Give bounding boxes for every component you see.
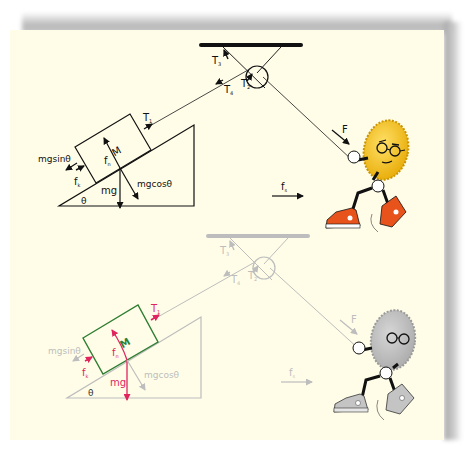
- ceiling-rope-right: [257, 47, 281, 73]
- rope-block-to-pulley: [156, 262, 255, 318]
- static-friction-label: fs: [281, 181, 288, 193]
- cartoon-character-yellow: [326, 116, 414, 232]
- label-t2: T2: [247, 270, 257, 282]
- static-friction-label: fs: [289, 367, 296, 379]
- friction-label: fk: [74, 176, 81, 188]
- weight-label: mg: [101, 185, 117, 196]
- rope-pulley-to-person: [263, 77, 352, 160]
- bottom-diagram: T3 T4 T2 T1 θ M mg fn mgcosθ mgsinθ fk F…: [48, 236, 419, 420]
- rope-block-to-pulley: [148, 70, 248, 127]
- tension-ceiling-arrow: [230, 241, 234, 250]
- angle-label: θ: [88, 388, 94, 398]
- tension-rope-arrow: [224, 272, 230, 276]
- mgcos-label: mgcosθ: [144, 370, 180, 380]
- mgcos-label: mgcosθ: [137, 179, 173, 189]
- friction-arrow: [76, 166, 84, 170]
- angle-label: θ: [81, 196, 87, 206]
- physics-diagrams: T3 T4 T2 T1 θ M mg fn mgcosθ mgsinθ fk F…: [0, 0, 474, 458]
- label-t3: T3: [211, 55, 221, 67]
- weight-label: mg: [110, 377, 126, 388]
- label-t2: T2: [240, 78, 250, 90]
- label-t1: T1: [142, 112, 152, 124]
- mgsin-arrow: [66, 163, 77, 170]
- rope-pulley-to-person: [270, 268, 360, 350]
- label-t1: T1: [150, 303, 160, 315]
- label-t4: T4: [223, 84, 233, 96]
- applied-force-label: F: [351, 314, 357, 325]
- cartoon-character-grey: [334, 307, 419, 420]
- mgcos-arrow: [127, 360, 145, 390]
- mgcos-arrow: [120, 168, 138, 199]
- ceiling-rope-right: [264, 238, 288, 264]
- tension-block-arrow: [144, 124, 152, 129]
- top-diagram: T3 T4 T2 T1 θ M mg fn mgcosθ mgsinθ fk F…: [38, 45, 414, 232]
- friction-label: fk: [82, 367, 89, 379]
- label-t4: T4: [230, 274, 240, 286]
- tension-rope-arrow: [216, 80, 223, 84]
- mgsin-label: mgsinθ: [48, 346, 81, 356]
- mgsin-label: mgsinθ: [38, 154, 71, 164]
- label-t3: T3: [219, 245, 229, 257]
- tension-pulley-arrow: [247, 74, 252, 81]
- friction-arrow: [85, 357, 92, 361]
- applied-force-label: F: [342, 124, 348, 135]
